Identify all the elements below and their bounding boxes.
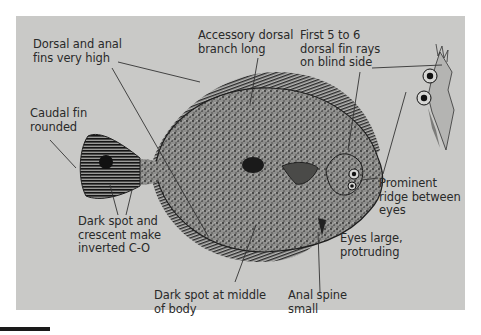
label-caudal-fin: Caudal fin rounded	[30, 107, 87, 134]
label-dark-spot-middle: Dark spot at middle of body	[154, 289, 266, 316]
label-prominent-ridge: Prominent ridge between eyes	[379, 177, 461, 218]
body-dark-spot	[242, 157, 264, 173]
inset-head-view	[417, 44, 454, 150]
label-accessory-dorsal: Accessory dorsal branch long	[198, 29, 293, 56]
label-anal-spine: Anal spine small	[288, 289, 347, 316]
label-eyes-large: Eyes large, protruding	[340, 232, 403, 259]
caudal-peduncle	[138, 159, 158, 185]
label-dorsal-anal-fins: Dorsal and anal fins very high	[33, 38, 122, 65]
label-first-rays: First 5 to 6 dorsal fin rays on blind si…	[300, 29, 380, 70]
label-dark-spot-crescent: Dark spot and crescent make inverted C-O	[78, 215, 161, 256]
tail-dark-spot	[99, 155, 113, 169]
